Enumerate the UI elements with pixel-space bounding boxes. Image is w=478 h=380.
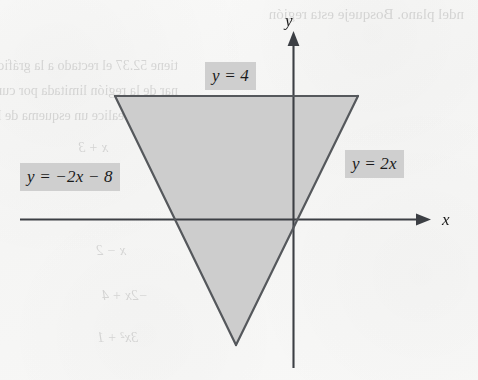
equation-label-top: y = 4: [205, 62, 256, 90]
equation-label-left: y = −2x − 8: [20, 163, 120, 191]
y-axis-label: y: [285, 12, 293, 29]
equation-label-right: y = 2x: [345, 150, 404, 178]
x-axis-label: x: [442, 211, 450, 228]
graph-figure: ndel plano. Bosqueje esta región tiene 5…: [0, 0, 478, 380]
